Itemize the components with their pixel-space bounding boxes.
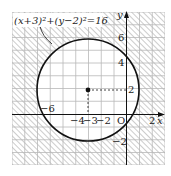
equation-label: (x+3)²+(y−2)²=16 [14,15,109,26]
y-tick-6: 6 [118,32,124,43]
x-tick-2: 2 [149,115,155,126]
origin-label: O [117,115,125,126]
coordinate-diagram: (x+3)²+(y−2)²=16 y x O 6 4 2 −2 −6 −4 −3… [0,0,171,176]
x-tick-neg6: −6 [40,103,55,114]
center-point [86,88,91,93]
x-axis-label: x [157,115,163,126]
x-tick-neg2: −2 [96,115,111,126]
y-tick-2: 2 [128,84,134,95]
y-tick-4: 4 [118,57,124,68]
y-axis-label: y [116,9,123,20]
y-tick-neg2: −2 [112,136,127,147]
